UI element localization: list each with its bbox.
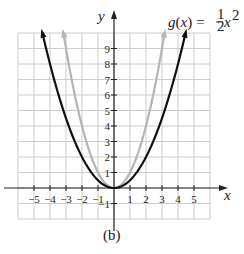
x-tick-label: 4	[175, 193, 181, 205]
y-tick-label: 8	[105, 58, 111, 70]
y-tick-label: 5	[105, 105, 111, 117]
y-tick-label: 1	[105, 167, 111, 179]
y-tick-label: 4	[105, 120, 111, 132]
x-axis-label: x	[223, 187, 231, 203]
x-tick-label: 2	[143, 193, 149, 205]
x-tick-label: −4	[44, 193, 56, 205]
svg-text:g(x) =: g(x) =	[168, 14, 204, 31]
y-tick-label: 6	[105, 89, 111, 101]
y-tick-label: 3	[105, 136, 111, 148]
y-axis-label: y	[96, 8, 105, 24]
x-tick-label: −3	[60, 193, 72, 205]
y-tick-label: 7	[105, 74, 111, 86]
y-tick-label: 2	[105, 151, 111, 163]
x-tick-label: 5	[191, 193, 197, 205]
y-tick-label: −1	[98, 198, 110, 210]
x-tick-label: −2	[76, 193, 88, 205]
parabola-chart: −5−4−3−2−112345−1123456789 y x g(x) = 1 …	[0, 0, 244, 254]
equation-exponent: 2	[232, 7, 240, 23]
x-tick-label: 1	[127, 193, 133, 205]
y-tick-label: 9	[105, 43, 111, 55]
equation-variable: x	[223, 14, 231, 30]
x-tick-label: 3	[159, 193, 165, 205]
figure-caption: (b)	[103, 227, 121, 244]
equation-label: g(x) = 1 2 x 2	[168, 6, 240, 34]
x-tick-label: −5	[28, 193, 40, 205]
